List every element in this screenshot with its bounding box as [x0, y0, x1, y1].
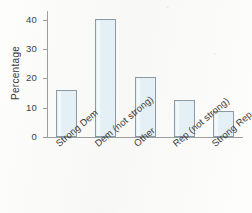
y-axis-tick-label: 30 [26, 44, 37, 54]
y-axis-tick: 30 [43, 49, 47, 50]
y-axis-tick: 0 [43, 137, 47, 138]
y-axis-tick: 10 [43, 108, 47, 109]
y-axis-tick-label: 20 [26, 74, 37, 84]
y-axis-title: Percentage [7, 28, 23, 118]
y-axis-tick-label: 0 [32, 132, 37, 142]
y-axis-tick: 40 [43, 20, 47, 21]
bar-chart-figure: Percentage 010203040 Strong DemDem (not … [0, 0, 252, 213]
y-axis-tick: 20 [43, 78, 47, 79]
y-axis-line [47, 11, 48, 137]
bar [95, 19, 116, 137]
y-axis-tick-label: 10 [26, 103, 37, 113]
y-axis-tick-label: 40 [26, 15, 37, 25]
scan-artifact-speck [166, 6, 169, 8]
